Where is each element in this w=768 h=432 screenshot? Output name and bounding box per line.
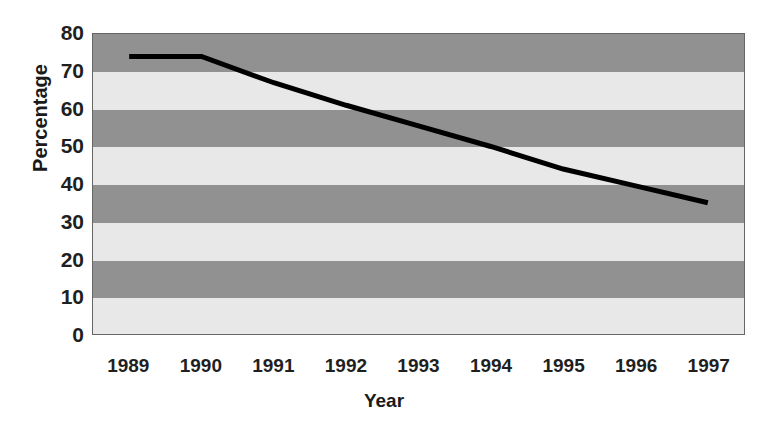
y-tick-label: 60: [12, 97, 84, 121]
x-tick-label: 1994: [451, 355, 531, 377]
x-tick-label: 1997: [669, 355, 749, 377]
y-tick-label: 30: [12, 210, 84, 234]
y-axis-tick-labels: 01020304050607080: [0, 0, 84, 432]
x-tick-label: 1992: [306, 355, 386, 377]
x-tick-label: 1991: [233, 355, 313, 377]
y-tick-label: 70: [12, 59, 84, 83]
plot-area: [92, 33, 745, 335]
data-line-series: [93, 34, 744, 334]
x-tick-label: 1989: [88, 355, 168, 377]
line-chart: Percentage 01020304050607080 19891990199…: [0, 0, 768, 432]
y-tick-label: 40: [12, 172, 84, 196]
y-tick-label: 20: [12, 248, 84, 272]
x-axis-title: Year: [0, 390, 768, 412]
x-tick-label: 1990: [161, 355, 241, 377]
x-tick-label: 1995: [524, 355, 604, 377]
x-tick-label: 1993: [379, 355, 459, 377]
y-tick-label: 50: [12, 134, 84, 158]
x-tick-label: 1996: [596, 355, 676, 377]
y-tick-label: 0: [12, 323, 84, 347]
y-tick-label: 80: [12, 21, 84, 45]
y-tick-label: 10: [12, 285, 84, 309]
